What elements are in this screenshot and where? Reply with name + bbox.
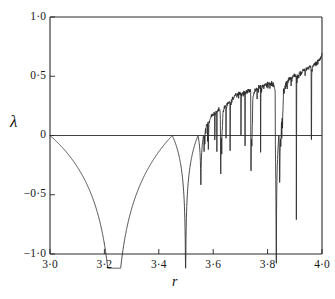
x-tick-label-3-2: 3·2 [84, 258, 124, 270]
x-tick-label-3-0: 3·0 [30, 258, 70, 270]
y-tick-label-minus-1-0: −1·0 [24, 247, 46, 259]
y-tick-label-minus-0-5: −0·5 [24, 187, 46, 199]
x-tick-label-4-0: 4·0 [302, 258, 335, 270]
x-tick-label-3-4: 3·4 [139, 258, 179, 270]
y-tick-label-0-5: 0·5 [30, 69, 46, 81]
lyapunov-curve [50, 53, 322, 268]
x-tick-label-3-6: 3·6 [193, 258, 233, 270]
lyapunov-exponent-figure: 1·0 0·5 0 −0·5 −1·0 3·0 3·2 3·4 3·6 3·8 … [0, 0, 335, 299]
y-tick-label-0: 0 [40, 128, 46, 140]
x-axis-title: r [172, 274, 177, 290]
y-axis-title: λ [10, 112, 17, 132]
y-tick-label-1-0: 1·0 [30, 10, 46, 22]
plot-canvas [0, 0, 335, 299]
x-tick-label-3-8: 3·8 [248, 258, 288, 270]
